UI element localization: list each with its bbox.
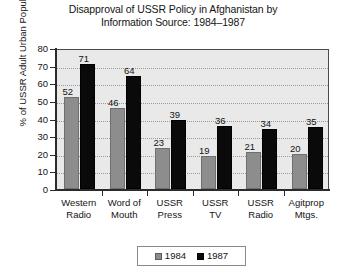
bar-1987 [308,127,323,189]
y-axis-tick-label: 70 [28,62,48,72]
gray-swatch-icon [155,253,162,260]
category-label-line: USSR [238,197,284,209]
bar-1984 [246,152,261,189]
gridline [57,156,328,157]
chart-title-line-1: Disapproval of USSR Policy in Afghanista… [20,3,326,16]
bar-value-label: 19 [193,146,215,156]
category-label-line: Western [56,197,102,209]
x-axis-tick [193,191,194,196]
y-axis-tick [50,49,56,50]
gridline [57,173,328,174]
gridline [57,68,328,69]
y-axis-title: % of USSR Adult Urban Population [17,0,28,128]
category-label-line: TV [193,209,239,221]
bar-1987 [126,76,141,189]
bar-1984 [201,156,216,189]
bar-1984 [64,97,79,189]
gridline [57,138,328,139]
x-axis-category-label: USSRPress [147,197,193,220]
x-axis-category-label: USSRTV [193,197,239,220]
y-axis-tick-label: 40 [28,115,48,125]
x-axis-tick [238,191,239,196]
bar-1987 [80,64,95,189]
bar-value-label: 71 [73,54,95,64]
bar-value-label: 52 [57,87,79,97]
bar-1987 [171,120,186,189]
y-axis-tick-label: 50 [28,97,48,107]
y-axis-tick [50,190,56,191]
chart-title-line-2: Information Source: 1984–1987 [20,16,326,29]
bar-1984 [155,148,170,189]
y-axis-tick-label: 60 [28,79,48,89]
black-swatch-icon [197,253,204,260]
category-label-line: USSR [147,197,193,209]
x-axis-tick [147,191,148,196]
x-axis-tick [284,191,285,196]
x-axis-category-label: USSRRadio [238,197,284,220]
gridline [57,103,328,104]
bar-value-label: 34 [255,119,277,129]
category-label-line: Press [147,209,193,221]
gridline [57,85,328,86]
bar-value-label: 35 [300,117,322,127]
legend-item-1987: 1987 [197,251,228,261]
bar-1987 [217,126,232,189]
y-axis-tick-label: 30 [28,132,48,142]
legend-label-1987: 1987 [207,251,228,261]
x-axis-category-label: WesternRadio [56,197,102,220]
category-label-line: USSR [193,197,239,209]
bar-value-label: 64 [118,66,140,76]
bar-value-label: 36 [209,116,231,126]
legend-item-1984: 1984 [155,251,186,261]
y-axis-tick-label: 80 [28,44,48,54]
legend-label-1984: 1984 [165,251,186,261]
bar-value-label: 39 [164,110,186,120]
y-axis-tick-label: 20 [28,150,48,160]
category-label-line: Mouth [102,209,148,221]
category-label-line: Agitprop [284,197,330,209]
category-label-line: Word of [102,197,148,209]
bar-1984 [292,154,307,189]
x-axis-tick [102,191,103,196]
category-label-line: Radio [56,209,102,221]
bar-value-label: 20 [284,144,306,154]
y-axis-tick [50,172,56,173]
bar-value-label: 46 [102,98,124,108]
chart-title: Disapproval of USSR Policy in Afghanista… [20,3,326,29]
x-axis-category-label: AgitpropMtgs. [284,197,330,220]
y-axis-tick [50,137,56,138]
gridline [57,121,328,122]
y-axis-tick-label: 0 [28,185,48,195]
category-label-line: Radio [238,209,284,221]
y-axis-tick-label: 10 [28,167,48,177]
bar-1987 [262,129,277,189]
legend: 1984 1987 [137,246,246,266]
y-axis-tick [50,120,56,121]
y-axis-tick [50,84,56,85]
y-axis-tick [50,102,56,103]
bar-chart: Disapproval of USSR Policy in Afghanista… [0,0,346,273]
y-axis-tick [50,155,56,156]
x-axis-category-label: Word ofMouth [102,197,148,220]
bar-value-label: 21 [239,142,261,152]
plot-area [56,49,329,190]
category-label-line: Mtgs. [284,209,330,221]
bar-value-label: 23 [148,138,170,148]
bar-1984 [110,108,125,189]
y-axis-tick [50,67,56,68]
